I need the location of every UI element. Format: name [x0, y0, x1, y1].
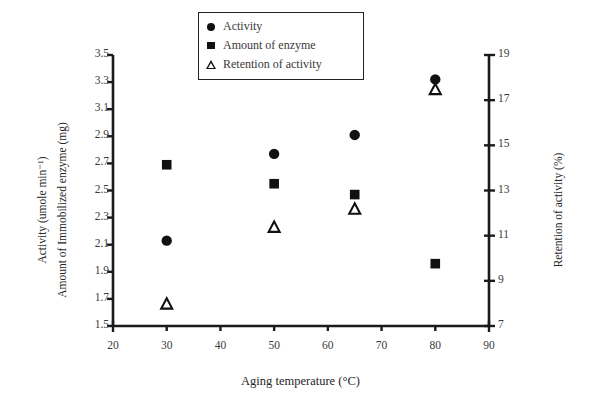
x-axis-tick-label: 30 [147, 339, 187, 351]
y-axis-right-tick-label: 17 [498, 92, 532, 104]
x-axis-title: Aging temperature (°C) [0, 374, 589, 389]
data-point-activity [350, 130, 360, 140]
x-axis-tick-label: 20 [93, 339, 133, 351]
legend-label: Activity [223, 19, 262, 34]
y-axis-right-title: Retention of activity (%) [548, 95, 568, 325]
y-axis-right-tick-label: 9 [498, 273, 532, 285]
x-axis-tick-label: 70 [362, 339, 402, 351]
axes-group [107, 55, 495, 332]
legend-label: Amount of enzyme [223, 38, 316, 53]
data-point-retention-of-activity [430, 84, 441, 94]
y-axis-left-title-line2: Amount of Immobilized enzyme (mg) [56, 95, 68, 325]
x-axis-title-text: Aging temperature (°C) [241, 374, 360, 388]
data-point-retention-of-activity [349, 203, 360, 213]
x-axis-tick-label: 90 [469, 339, 509, 351]
y-axis-left-tick-label: 2.1 [69, 237, 109, 249]
legend-item-retention-of-activity: Retention of activity [205, 55, 357, 74]
data-points-group [161, 74, 441, 308]
x-axis-tick-label: 50 [254, 339, 294, 351]
filled-square-icon [205, 40, 217, 52]
data-point-amount-of-enzyme [162, 160, 172, 170]
y-axis-left-tick-label: 2.3 [69, 210, 109, 222]
y-axis-left-tick-label: 3.5 [69, 47, 109, 59]
legend: Activity Amount of enzyme Retention of a… [198, 12, 364, 80]
y-axis-left-tick-label: 3.3 [69, 74, 109, 86]
legend-item-amount-of-enzyme: Amount of enzyme [205, 36, 357, 55]
y-axis-right-tick-label: 19 [498, 47, 532, 59]
y-axis-right-tick-label: 7 [498, 318, 532, 330]
data-point-activity [162, 235, 172, 245]
y-axis-left-tick-label: 2.7 [69, 155, 109, 167]
data-point-amount-of-enzyme [350, 190, 360, 200]
y-axis-left-title-line1: Activity (umole min⁻¹) [35, 95, 49, 325]
y-axis-right-tick-label: 13 [498, 183, 532, 195]
y-axis-right-tick-label: 11 [498, 228, 532, 240]
x-axis-tick-label: 60 [308, 339, 348, 351]
data-point-retention-of-activity [269, 221, 280, 231]
y-axis-left-tick-label: 1.9 [69, 264, 109, 276]
y-axis-left-tick-label: 2.5 [69, 183, 109, 195]
data-point-retention-of-activity [161, 298, 172, 308]
figure-container: Activity (umole min⁻¹) Amount of Immobil… [0, 0, 589, 414]
legend-item-activity: Activity [205, 17, 357, 36]
data-point-amount-of-enzyme [430, 259, 440, 269]
y-axis-left-tick-label: 1.7 [69, 291, 109, 303]
y-axis-left-tick-label: 1.5 [69, 318, 109, 330]
filled-circle-icon [205, 21, 217, 33]
x-axis-tick-label: 80 [415, 339, 455, 351]
data-point-activity [269, 149, 279, 159]
legend-label: Retention of activity [223, 57, 322, 72]
x-axis-tick-label: 40 [200, 339, 240, 351]
y-axis-right-tick-label: 15 [498, 137, 532, 149]
y-axis-left-tick-label: 2.9 [69, 128, 109, 140]
y-axis-left-tick-label: 3.1 [69, 101, 109, 113]
y-axis-right-title-text: Retention of activity (%) [552, 153, 564, 268]
open-triangle-icon [205, 59, 217, 71]
data-point-amount-of-enzyme [269, 179, 279, 189]
